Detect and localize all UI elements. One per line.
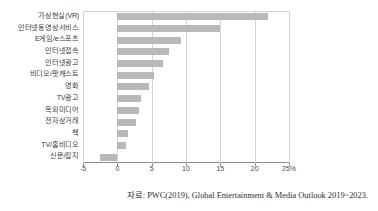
bar-row [83,105,289,117]
category-label: E게임/e스포츠 [0,34,79,46]
tick-label: 5 [150,165,154,172]
bar-row [83,69,289,81]
tick-label: 15 [216,165,224,172]
bar-row [83,46,289,58]
bar-row [83,34,289,46]
source-note: 자료: PWC(2019), Global Entertainment & Me… [0,188,368,200]
category-label: 영화 [0,81,79,93]
tick-mark [289,163,290,166]
category-label: 인터넷동영상서비스 [0,23,79,35]
bar [117,48,169,55]
gridline [289,11,290,163]
category-axis-labels: 가상현실(VR)인터넷동영상서비스E게임/e스포츠인터넷접속인터넷광고비디오/팟… [0,11,81,163]
bar [117,95,141,102]
bar-row [83,128,289,140]
tick-label: 25% [282,165,296,172]
category-label: 인터넷광고 [0,58,79,70]
bar [117,13,268,20]
bar-row [83,140,289,152]
bar [117,72,154,79]
category-label: TV광고 [0,93,79,105]
bar [117,37,180,44]
category-label: 옥외미디어 [0,105,79,117]
bar [117,119,136,126]
category-label: 인터넷접속 [0,46,79,58]
bar-row [83,81,289,93]
bar-row [83,151,289,163]
category-label: 책 [0,128,79,140]
tick-mark [220,163,221,166]
category-label: 전자상거래 [0,116,79,128]
tick-label: 0 [115,165,119,172]
bar [117,107,138,114]
tick-mark [83,163,84,166]
tick-label: -5 [80,165,86,172]
bar [117,25,220,32]
category-label: 비디오/팟캐스트 [0,69,79,81]
tick-label: 20 [251,165,259,172]
bar-row [83,58,289,70]
bar-row [83,116,289,128]
bar [117,142,125,149]
plot-area [83,11,289,163]
value-axis-tick-labels: -50510152025% [0,165,378,177]
bar-row [83,11,289,23]
tick-mark [152,163,153,166]
bar-chart: 가상현실(VR)인터넷동영상서비스E게임/e스포츠인터넷접속인터넷광고비디오/팟… [0,0,378,211]
bar-row [83,93,289,105]
category-label: 신문/잡지 [0,151,79,163]
tick-label: 10 [182,165,190,172]
bar-row [83,23,289,35]
bar [117,60,162,67]
category-label: TV/홈비디오 [0,140,79,152]
bar [117,130,128,137]
tick-mark [255,163,256,166]
tick-mark [186,163,187,166]
tick-mark [117,163,118,166]
bar [100,154,117,161]
category-label: 가상현실(VR) [0,11,79,23]
bar [117,83,149,90]
